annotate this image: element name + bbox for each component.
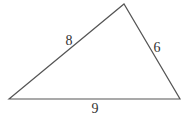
triangle-diagram: 8 6 9 bbox=[0, 0, 185, 114]
side-label-bottom: 9 bbox=[92, 101, 99, 114]
side-label-left-top: 8 bbox=[66, 33, 73, 48]
side-label-top-right: 6 bbox=[154, 40, 161, 55]
